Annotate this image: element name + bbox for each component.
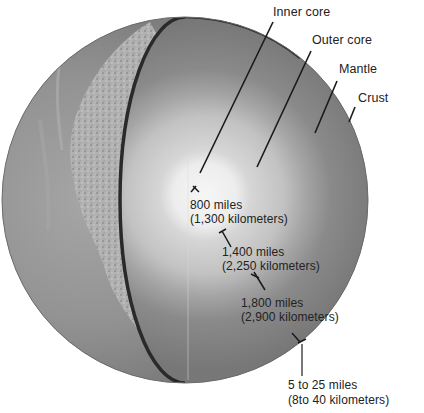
outer-core-miles: 1,400 miles [222,246,284,259]
label-mantle: Mantle [339,63,377,76]
mantle-miles: 1,800 miles [241,297,303,310]
crust-miles: 5 to 25 miles [288,379,357,392]
mantle-km: (2,900 kilometers) [241,311,339,324]
label-crust: Crust [358,92,388,105]
inner-core-miles: 800 miles [190,199,242,212]
cutaway-face [120,17,368,383]
label-outer-core: Outer core [312,34,372,47]
crust-leader-line [349,107,355,122]
label-inner-core: Inner core [273,6,330,19]
earth-cutaway-diagram: Inner core Outer core Mantle Crust 800 m… [0,0,424,413]
crust-km: (8to 40 kilometers) [288,394,389,407]
inner-core-km: (1,300 kilometers) [190,213,288,226]
outer-core-km: (2,250 kilometers) [222,260,320,273]
